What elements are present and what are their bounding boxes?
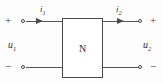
output-current-label: i2 [116, 5, 122, 16]
input-voltage-subscript: 1 [13, 45, 16, 52]
input-bottom-polarity-sign: − [5, 61, 11, 72]
output-bottom-polarity-sign: − [150, 61, 156, 72]
output-voltage-label: u2 [143, 40, 151, 53]
input-current-label: i1 [40, 5, 46, 16]
network-block: N [62, 18, 103, 78]
input-bottom-wire [26, 67, 62, 68]
output-bottom-wire [103, 67, 139, 68]
input-top-wire [26, 21, 62, 22]
input-bottom-terminal[interactable] [21, 65, 25, 69]
network-block-label: N [63, 19, 102, 77]
input-current-subscript: 1 [43, 9, 46, 16]
input-top-terminal[interactable] [21, 19, 25, 23]
input-current-arrow-icon [36, 18, 43, 24]
output-top-terminal[interactable] [138, 19, 142, 23]
output-current-arrow-icon [117, 18, 124, 24]
output-top-polarity-sign: + [150, 15, 156, 26]
input-voltage-label: u1 [8, 40, 16, 53]
output-bottom-terminal[interactable] [138, 65, 142, 69]
input-top-polarity-sign: + [5, 15, 11, 26]
two-port-network-diagram: N + i1 + i2 u1 u2 − − [0, 0, 163, 83]
output-voltage-subscript: 2 [148, 45, 151, 52]
output-current-subscript: 2 [119, 9, 122, 16]
